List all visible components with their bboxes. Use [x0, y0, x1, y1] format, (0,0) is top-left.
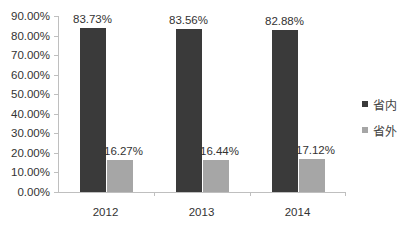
x-tick-mark [154, 192, 155, 196]
legend-item: 省内 [362, 91, 397, 117]
bar-in-province-2012 [80, 28, 106, 192]
y-tick-mark [54, 172, 58, 173]
y-tick-mark [54, 55, 58, 56]
data-label: 83.56% [159, 14, 219, 26]
data-label: 17.12% [286, 144, 346, 156]
bar-chart: 0.00%10.00%20.00%30.00%40.00%50.00%60.00… [0, 0, 405, 230]
y-tick-mark [54, 114, 58, 115]
y-tick-label: 30.00% [0, 127, 50, 139]
y-tick-label: 10.00% [0, 166, 50, 178]
y-tick-mark [54, 153, 58, 154]
legend-item: 省外 [362, 117, 397, 143]
x-tick-label: 2012 [76, 206, 136, 218]
y-tick-mark [54, 192, 58, 193]
y-tick-label: 40.00% [0, 108, 50, 120]
legend-swatch-icon [362, 127, 368, 133]
data-label: 16.44% [190, 145, 250, 157]
y-tick-mark [54, 16, 58, 17]
bar-in-province-2014 [272, 30, 298, 192]
legend: 省内省外 [362, 91, 397, 143]
y-tick-label: 80.00% [0, 30, 50, 42]
bar-out-province-2014 [299, 159, 325, 192]
x-tick-mark [250, 192, 251, 196]
legend-label: 省内 [373, 96, 397, 113]
legend-label: 省外 [373, 122, 397, 139]
y-tick-mark [54, 133, 58, 134]
y-tick-label: 20.00% [0, 147, 50, 159]
x-axis-line [58, 192, 346, 193]
y-tick-mark [54, 94, 58, 95]
x-tick-label: 2014 [268, 206, 328, 218]
y-tick-mark [54, 75, 58, 76]
y-axis-line [58, 16, 59, 192]
bar-in-province-2013 [176, 29, 202, 192]
data-label: 82.88% [255, 15, 315, 27]
y-tick-label: 0.00% [0, 186, 50, 198]
y-tick-mark [54, 36, 58, 37]
data-label: 16.27% [94, 145, 154, 157]
y-tick-label: 60.00% [0, 69, 50, 81]
y-tick-label: 70.00% [0, 49, 50, 61]
data-label: 83.73% [63, 13, 123, 25]
y-tick-label: 90.00% [0, 10, 50, 22]
legend-swatch-icon [362, 101, 368, 107]
x-tick-label: 2013 [172, 206, 232, 218]
bar-out-province-2013 [203, 160, 229, 192]
y-tick-label: 50.00% [0, 88, 50, 100]
bar-out-province-2012 [107, 160, 133, 192]
x-tick-mark [345, 192, 346, 196]
